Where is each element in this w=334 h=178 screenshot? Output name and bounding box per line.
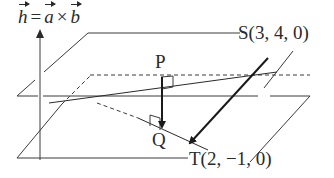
point-t-label: T(2, −1, 0) <box>189 149 271 168</box>
point-s-label: S(3, 4, 0) <box>238 23 309 42</box>
st-arrow <box>190 58 268 143</box>
normal-vector-arrow <box>36 29 44 160</box>
point-p-label: P <box>155 52 166 71</box>
point-q-label: Q <box>152 130 166 149</box>
arrowhead-icon <box>36 29 44 38</box>
